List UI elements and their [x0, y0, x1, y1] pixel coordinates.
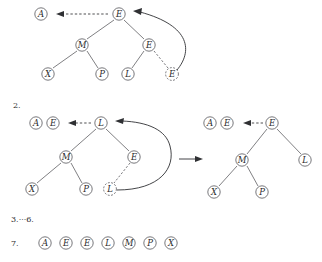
- emit-arrow-head: [68, 120, 76, 126]
- step-2-left-edges: [37, 129, 130, 183]
- node-label: M: [61, 152, 71, 162]
- s2-emit-arrow-left: [68, 120, 91, 126]
- node-label: M: [237, 155, 247, 165]
- s1-node-x: X: [42, 68, 54, 80]
- node-label: L: [124, 69, 131, 79]
- node-label: P: [98, 69, 105, 79]
- node-label: X: [167, 238, 175, 248]
- edge-m-to-x: [53, 51, 77, 68]
- s1-node-e-right: E: [143, 39, 155, 51]
- edge-root-to-m: [247, 129, 267, 154]
- node-label: X: [210, 187, 218, 197]
- s2l-node-p: P: [80, 183, 92, 195]
- final-node-3: L: [102, 237, 114, 249]
- s2r-node-a: A: [204, 117, 216, 129]
- edge-m-to-p: [87, 51, 98, 68]
- s1-node-m: M: [76, 39, 88, 51]
- step-7-number: 7.: [11, 239, 19, 248]
- s2l-node-root-l: L: [95, 117, 107, 129]
- s2l-node-x: X: [26, 183, 38, 195]
- edge-root-to-l: [277, 129, 301, 154]
- node-label: L: [301, 155, 308, 165]
- edge-root-to-e: [106, 129, 129, 151]
- node-label: L: [106, 184, 113, 194]
- node-label: M: [77, 40, 87, 50]
- promote-arrow-head: [133, 8, 142, 15]
- step-2-left-tree-group: A E L M E X P L: [26, 117, 171, 196]
- node-label: E: [49, 118, 57, 128]
- promote-arrow-path: [117, 121, 171, 190]
- final-node-1: E: [60, 237, 72, 249]
- node-label: P: [82, 184, 89, 194]
- node-label: X: [28, 184, 36, 194]
- s2-promote-arrow: [115, 118, 171, 190]
- edge-e-to-l: [132, 51, 144, 68]
- s1-node-l: L: [122, 68, 134, 80]
- node-label: E: [83, 238, 91, 248]
- s1-emit-arrow: [56, 11, 108, 17]
- step-2-right-tree-group: A E E M L X P: [204, 117, 311, 198]
- node-label: P: [258, 187, 265, 197]
- s2r-node-root-e: E: [266, 117, 278, 129]
- node-label: L: [104, 238, 111, 248]
- s2r-node-l: L: [299, 154, 311, 166]
- node-label: E: [115, 9, 123, 19]
- final-node-4: M: [123, 237, 135, 249]
- node-label: X: [44, 69, 52, 79]
- s2-transform-arrow: [179, 156, 203, 162]
- step-3-to-6-number: 3.···6.: [11, 215, 34, 224]
- tree-sort-figure: A E M E X P L E 2.: [0, 0, 322, 262]
- edge-m-to-x: [219, 166, 237, 186]
- node-label: A: [41, 238, 48, 248]
- node-label: A: [32, 118, 39, 128]
- s2-emit-arrow-right: [243, 120, 263, 126]
- node-label: E: [145, 40, 153, 50]
- s1-node-root-e: E: [113, 8, 125, 20]
- node-label: A: [37, 9, 44, 19]
- s2r-node-p: P: [256, 186, 268, 198]
- node-label: E: [62, 238, 70, 248]
- emit-arrow-head: [243, 120, 251, 126]
- edge-e-to-l-dashed: [114, 163, 130, 183]
- node-label: P: [146, 238, 153, 248]
- node-label: E: [168, 69, 176, 79]
- edge-root-to-m: [71, 129, 96, 151]
- s2l-node-m: M: [60, 151, 72, 163]
- node-label: M: [124, 238, 134, 248]
- node-label: E: [130, 152, 138, 162]
- transform-arrow-head: [195, 156, 203, 162]
- s2r-node-x: X: [208, 186, 220, 198]
- final-node-0: A: [39, 237, 51, 249]
- s2l-node-l-dashed: L: [104, 183, 117, 196]
- s2r-node-m: M: [236, 154, 248, 166]
- s1-node-e-dashed: E: [166, 68, 179, 81]
- final-node-2: E: [81, 237, 93, 249]
- edge-m-to-p: [71, 163, 82, 183]
- node-label: L: [97, 118, 104, 128]
- node-label: A: [206, 118, 213, 128]
- final-sorted-row: A E E L M P X: [39, 237, 177, 249]
- step-2-number: 2.: [13, 101, 21, 110]
- edge-m-to-p: [247, 166, 258, 186]
- edge-root-to-e-right: [124, 20, 144, 39]
- edge-e-to-e-dashed: [154, 51, 168, 68]
- s2l-node-e: E: [128, 151, 140, 163]
- s1-node-p: P: [96, 68, 108, 80]
- final-node-6: X: [165, 237, 177, 249]
- node-label: E: [223, 118, 231, 128]
- emit-arrow-head: [56, 11, 64, 17]
- s2l-node-e-detached: E: [47, 117, 59, 129]
- s1-promote-arrow: [133, 8, 186, 70]
- edge-m-to-x: [37, 163, 61, 183]
- edge-root-to-m: [87, 20, 114, 39]
- step-2-right-edges: [219, 129, 301, 186]
- s2r-node-e-detached: E: [221, 117, 233, 129]
- node-label: E: [268, 118, 276, 128]
- final-node-5: P: [144, 237, 156, 249]
- s2l-node-a: A: [30, 117, 42, 129]
- promote-arrow-head: [115, 118, 124, 124]
- s1-node-a: A: [35, 8, 47, 20]
- step-1-group: A E M E X P L E: [35, 8, 186, 81]
